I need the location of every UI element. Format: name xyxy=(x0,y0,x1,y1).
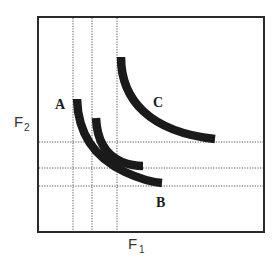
x-axis-label-main: F xyxy=(128,235,137,252)
curve-label-b: B xyxy=(156,195,165,210)
x-axis-label: F 1 xyxy=(128,235,145,255)
curve-c xyxy=(121,57,215,139)
x-axis-label-subscript: 1 xyxy=(139,244,145,255)
y-axis-label: F 2 xyxy=(14,113,30,133)
indifference-curve-diagram: A B C F 1 F 2 xyxy=(0,0,275,261)
curve-label-c: C xyxy=(153,95,163,110)
plot-frame xyxy=(38,17,264,232)
curves xyxy=(77,57,215,183)
curve-label-a: A xyxy=(55,97,66,112)
y-axis-label-main: F xyxy=(14,113,23,130)
y-axis-label-subscript: 2 xyxy=(24,122,30,133)
